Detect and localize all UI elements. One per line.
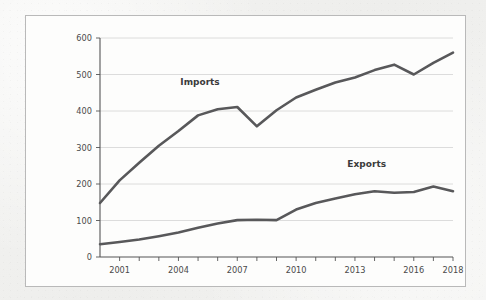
y-axis-tick-label: 500: [76, 70, 92, 80]
series-line-exports: [100, 187, 453, 245]
x-axis-tick-label: 2018: [443, 265, 464, 275]
x-axis-tick-labels-group: 2001200420072010201320162018: [109, 265, 463, 275]
screenshot-root: 0100200300400500600 20012004200720102013…: [0, 0, 486, 300]
y-axis-tick-label: 0: [87, 252, 92, 262]
y-axis-tick-label: 100: [76, 216, 92, 226]
y-axis-tick-labels-group: 0100200300400500600: [76, 33, 92, 262]
y-axis-tick-label: 600: [76, 33, 92, 43]
chart-canvas: 0100200300400500600 20012004200720102013…: [26, 16, 465, 286]
series-label-imports: Imports: [180, 77, 219, 87]
y-axis-tick-label: 200: [76, 179, 92, 189]
x-axis-tick-label: 2007: [227, 265, 248, 275]
y-axis-ticks-group: [96, 38, 100, 257]
x-axis-tick-label: 2013: [345, 265, 366, 275]
y-axis-tick-label: 300: [76, 143, 92, 153]
x-axis-tick-label: 2004: [168, 265, 189, 275]
series-annotations-group: ImportsExports: [180, 77, 386, 168]
series-label-exports: Exports: [347, 159, 386, 169]
data-series-group: [100, 53, 453, 245]
series-line-imports: [100, 53, 453, 203]
x-axis-ticks-group: [120, 257, 453, 261]
x-axis-tick-label: 2001: [109, 265, 130, 275]
chart-frame: 0100200300400500600 20012004200720102013…: [25, 15, 466, 287]
y-axis-tick-label: 400: [76, 106, 92, 116]
line-chart: 0100200300400500600 20012004200720102013…: [26, 16, 465, 286]
x-axis-tick-label: 2010: [286, 265, 307, 275]
x-axis-tick-label: 2016: [403, 265, 424, 275]
